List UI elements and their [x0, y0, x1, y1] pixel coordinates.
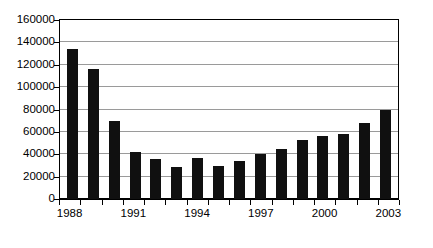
x-tick-mark	[144, 200, 145, 205]
bar	[67, 49, 78, 199]
y-tick-label: 60000	[23, 126, 55, 138]
x-tick-mark	[314, 200, 315, 205]
y-tick-label: 20000	[23, 171, 55, 183]
x-tick-mark	[229, 200, 230, 205]
x-tick-mark	[165, 200, 166, 205]
bar	[338, 134, 349, 199]
bar	[276, 149, 287, 199]
bar	[130, 152, 141, 199]
bar	[213, 166, 224, 199]
x-tick-mark	[399, 200, 400, 205]
bar	[88, 69, 99, 199]
y-tick-label: 140000	[17, 37, 55, 49]
x-tick-mark	[187, 200, 188, 205]
bar	[192, 158, 203, 199]
bar	[171, 167, 182, 199]
x-tick-label: 2003	[376, 208, 402, 220]
y-tick-label: 160000	[17, 14, 55, 26]
bar-series	[60, 20, 398, 199]
bar	[109, 121, 120, 199]
bar	[150, 159, 161, 199]
plot-area	[59, 19, 399, 200]
bar	[359, 123, 370, 199]
bar	[297, 140, 308, 199]
x-tick-mark	[272, 200, 273, 205]
x-axis-labels: 198819911994199720002003	[59, 208, 399, 228]
bar	[317, 136, 328, 199]
x-tick-mark	[335, 200, 336, 205]
x-tick-label: 1997	[248, 208, 274, 220]
x-tick-label: 1994	[184, 208, 210, 220]
y-tick-label: 80000	[23, 104, 55, 116]
x-tick-label: 1991	[121, 208, 147, 220]
x-tick-mark	[59, 200, 60, 205]
x-tick-mark	[250, 200, 251, 205]
x-tick-mark	[378, 200, 379, 205]
x-tick-label: 2000	[312, 208, 338, 220]
x-tick-label: 1988	[57, 208, 83, 220]
bar	[255, 154, 266, 199]
x-tick-mark	[102, 200, 103, 205]
y-axis-labels: 0200004000060000800001000001200001400001…	[0, 0, 55, 201]
x-tick-mark	[123, 200, 124, 205]
y-tick-label: 120000	[17, 59, 55, 71]
y-tick-label: 40000	[23, 149, 55, 161]
x-tick-mark	[80, 200, 81, 205]
x-tick-mark	[357, 200, 358, 205]
bar	[380, 110, 391, 199]
x-axis-ticks	[59, 200, 399, 206]
x-tick-mark	[208, 200, 209, 205]
bar	[234, 161, 245, 199]
x-tick-mark	[293, 200, 294, 205]
bar-chart: 0200004000060000800001000001200001400001…	[0, 0, 433, 248]
y-tick-label: 100000	[17, 81, 55, 93]
